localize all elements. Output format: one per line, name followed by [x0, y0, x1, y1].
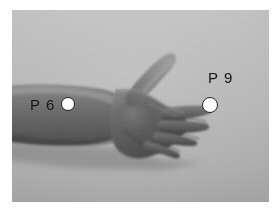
marker-label-p9: P 9 [208, 70, 233, 85]
marker-dot-p9[interactable] [202, 97, 218, 113]
marker-label-p6: P 6 [30, 97, 55, 112]
marker-dot-p6[interactable] [61, 97, 75, 111]
figure-container: P 6 P 9 [0, 0, 279, 214]
photograph-plate: P 6 P 9 [12, 10, 269, 202]
